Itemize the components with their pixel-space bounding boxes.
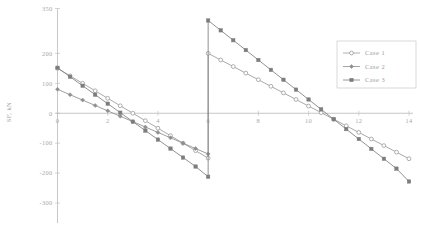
y-tick-label: -100 xyxy=(40,139,53,146)
data-point-marker xyxy=(206,19,209,22)
data-point-marker xyxy=(256,78,260,82)
x-tick-label: 4 xyxy=(156,117,160,124)
y-axis-title: SF, kN xyxy=(5,102,12,123)
legend-label: Case 2 xyxy=(365,63,385,70)
data-point-marker xyxy=(131,111,135,115)
data-point-marker xyxy=(194,165,197,168)
data-point-marker xyxy=(350,78,353,81)
data-point-marker xyxy=(169,147,172,150)
data-point-marker xyxy=(407,157,411,161)
data-point-marker xyxy=(131,120,134,123)
data-point-marker xyxy=(382,144,386,148)
chart-canvas: -300-200-1000100200350 02468101214 Case … xyxy=(0,0,421,231)
data-point-marker xyxy=(81,98,85,102)
data-point-marker xyxy=(106,109,110,113)
data-point-marker xyxy=(357,137,360,140)
x-axis: 02468101214 xyxy=(56,111,414,125)
data-point-marker xyxy=(319,108,322,111)
data-point-marker xyxy=(81,84,84,87)
y-axis: -300-200-1000100200350 xyxy=(40,5,60,223)
data-point-marker xyxy=(307,104,311,108)
data-point-marker xyxy=(370,147,373,150)
data-point-marker xyxy=(382,157,385,160)
data-point-marker xyxy=(93,103,97,107)
data-point-marker xyxy=(219,58,223,62)
data-point-marker xyxy=(257,58,260,61)
data-point-marker xyxy=(269,84,273,88)
x-tick-label: 0 xyxy=(56,117,60,124)
data-point-marker xyxy=(395,167,398,170)
y-tick-label: 200 xyxy=(42,50,53,57)
data-point-marker xyxy=(93,93,96,96)
shear-force-chart: -300-200-1000100200350 02468101214 Case … xyxy=(0,0,421,231)
x-tick-label: 8 xyxy=(257,117,261,124)
y-tick-label: -300 xyxy=(40,199,53,206)
data-point-marker xyxy=(68,75,71,78)
data-point-marker xyxy=(156,138,159,141)
data-point-marker xyxy=(269,68,272,71)
data-point-marker xyxy=(106,96,110,100)
data-point-marker xyxy=(307,98,310,101)
data-point-marker xyxy=(206,175,209,178)
data-point-marker xyxy=(232,39,235,42)
data-point-marker xyxy=(93,89,97,93)
data-point-marker xyxy=(294,98,298,102)
data-point-marker xyxy=(156,126,160,130)
data-point-marker xyxy=(143,119,147,123)
data-point-marker xyxy=(407,180,410,183)
chart-legend: Case 1Case 2Case 3 xyxy=(337,41,416,88)
y-tick-label: 350 xyxy=(42,5,53,12)
data-point-marker xyxy=(282,91,286,95)
data-point-marker xyxy=(345,127,348,130)
data-point-marker xyxy=(143,125,147,129)
data-point-marker xyxy=(106,102,109,105)
data-point-marker xyxy=(56,87,60,91)
x-tick-label: 2 xyxy=(106,117,110,124)
data-point-marker xyxy=(156,130,160,134)
data-point-marker xyxy=(219,29,222,32)
data-point-marker xyxy=(118,114,122,118)
data-point-marker xyxy=(56,66,59,69)
legend-label: Case 3 xyxy=(365,76,385,83)
data-point-marker xyxy=(294,88,297,91)
legend-label: Case 1 xyxy=(365,49,385,56)
data-point-marker xyxy=(231,65,235,69)
data-point-marker xyxy=(119,111,122,114)
data-point-marker xyxy=(395,150,399,154)
y-tick-label: -200 xyxy=(40,169,53,176)
data-point-marker xyxy=(369,137,373,141)
data-point-marker xyxy=(181,156,184,159)
data-point-marker xyxy=(144,129,147,132)
data-point-marker xyxy=(350,51,354,55)
x-tick-label: 10 xyxy=(305,117,312,124)
data-point-marker xyxy=(118,104,122,108)
x-tick-label: 14 xyxy=(406,117,413,124)
data-point-marker xyxy=(68,93,72,97)
y-tick-label: 100 xyxy=(42,80,53,87)
data-point-marker xyxy=(282,78,285,81)
data-point-marker xyxy=(244,48,247,51)
data-point-marker xyxy=(244,71,248,75)
y-tick-label: 0 xyxy=(49,110,53,117)
data-point-marker xyxy=(344,124,348,128)
data-point-marker xyxy=(332,118,335,121)
data-point-marker xyxy=(357,131,361,135)
data-point-marker xyxy=(319,111,323,115)
x-tick-label: 12 xyxy=(355,117,362,124)
